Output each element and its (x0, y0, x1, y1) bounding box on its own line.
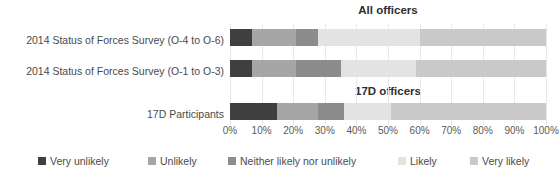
bar-segment (318, 103, 343, 120)
legend-label: Very likely (482, 155, 529, 167)
bar-segment (344, 103, 391, 120)
category-label-row-1: 2014 Status of Forces Survey (O-1 to O-3… (0, 65, 224, 77)
bar-segment (341, 60, 417, 77)
bar-segment (277, 103, 318, 120)
x-axis-tick-label: 0% (223, 125, 237, 136)
x-axis-tick-label: 20% (283, 125, 303, 136)
category-label-row-2: 17D Participants (0, 108, 224, 120)
bar-segment (416, 60, 546, 77)
bar-segment (296, 29, 318, 46)
x-axis-tick-label: 10% (252, 125, 272, 136)
bar-segment (420, 29, 546, 46)
gridline (546, 24, 547, 125)
x-axis-tick-label: 50% (378, 125, 398, 136)
x-axis-tick-label: 80% (473, 125, 493, 136)
legend-label: Likely (410, 155, 437, 167)
bar-segment (252, 29, 296, 46)
legend-swatch-icon (470, 157, 478, 165)
legend-swatch-icon (228, 157, 236, 165)
x-axis-tick-label: 60% (410, 125, 430, 136)
bar-segment (391, 103, 546, 120)
legend-swatch-icon (398, 157, 406, 165)
bar-segment (230, 103, 277, 120)
legend-item[interactable]: Very likely (470, 155, 529, 167)
chart-title-all-officers: All officers (230, 4, 546, 16)
x-axis-tick-label: 90% (504, 125, 524, 136)
legend-label: Very unlikely (50, 155, 109, 167)
bar-row (230, 103, 546, 120)
plot-area (230, 24, 546, 125)
x-axis-tick-label: 100% (533, 125, 559, 136)
legend-swatch-icon (38, 157, 46, 165)
legend-item[interactable]: Neither likely nor unlikely (228, 155, 356, 167)
bar-row (230, 29, 546, 46)
legend-label: Unlikely (160, 155, 197, 167)
bar-segment (318, 29, 419, 46)
legend-label: Neither likely nor unlikely (240, 155, 356, 167)
bar-segment (230, 29, 252, 46)
bar-segment (230, 60, 252, 77)
bar-segment (252, 60, 296, 77)
x-axis-tick-label: 30% (315, 125, 335, 136)
bar-row (230, 60, 546, 77)
legend-swatch-icon (148, 157, 156, 165)
category-label-row-0: 2014 Status of Forces Survey (O-4 to O-6… (0, 34, 224, 46)
chart-legend: Very unlikelyUnlikelyNeither likely nor … (0, 155, 558, 175)
bar-segment (296, 60, 340, 77)
x-axis-tick-label: 40% (346, 125, 366, 136)
x-axis-tick-label: 70% (441, 125, 461, 136)
x-axis: 0%10%20%30%40%50%60%70%80%90%100% (230, 125, 546, 141)
legend-item[interactable]: Likely (398, 155, 437, 167)
legend-item[interactable]: Unlikely (148, 155, 197, 167)
legend-item[interactable]: Very unlikely (38, 155, 109, 167)
